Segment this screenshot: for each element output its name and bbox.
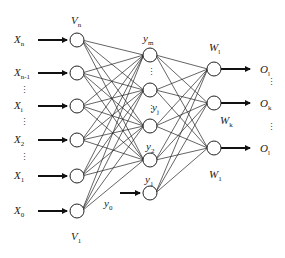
input-node bbox=[70, 169, 84, 183]
ellipsis: ⋮ bbox=[20, 85, 29, 95]
ellipsis: ⋮ bbox=[147, 104, 156, 114]
input-label-x1: X1 bbox=[13, 169, 25, 184]
input-label-xi: Xi bbox=[13, 99, 23, 114]
input-label-xn-1: Xn-1 bbox=[13, 66, 31, 81]
ellipsis: ⋮ bbox=[147, 67, 156, 77]
hidden-node bbox=[143, 153, 157, 167]
input-label-x2: X2 bbox=[13, 133, 25, 148]
output-node bbox=[207, 96, 221, 110]
output-node bbox=[207, 62, 221, 76]
weight-label-wl: Wl bbox=[209, 41, 220, 56]
ellipsis: ⋮ bbox=[267, 122, 276, 132]
ellipsis: ⋮ bbox=[20, 117, 29, 127]
output-label-o1: Ok bbox=[260, 97, 272, 112]
output-node bbox=[207, 141, 221, 155]
hidden-node bbox=[143, 186, 157, 200]
hidden-node bbox=[143, 83, 157, 97]
weight-label-w1: W1 bbox=[209, 168, 222, 183]
bias-label-y0: y0 bbox=[103, 197, 113, 212]
input-node bbox=[70, 99, 84, 113]
input-node bbox=[70, 133, 84, 147]
ellipsis: ⋮ bbox=[267, 77, 276, 87]
input-layer-bottom-label: V1 bbox=[71, 230, 82, 245]
hidden-node bbox=[143, 48, 157, 62]
ellipsis: ⋮ bbox=[20, 152, 29, 162]
input-node bbox=[70, 33, 84, 47]
hidden-label-ym: ym bbox=[142, 32, 154, 47]
hidden-label-y1: y1 bbox=[144, 173, 154, 188]
input-layer-top-label: Vn bbox=[71, 14, 82, 29]
neural-network-diagram: XnXn-1XiX2X1X0y0OlOkOlVnV1ymyjy2y1WlWkW1… bbox=[0, 0, 285, 258]
weight-label-wk: Wk bbox=[220, 114, 233, 129]
output-label-o0: Ol bbox=[260, 63, 270, 78]
hidden-node bbox=[143, 119, 157, 133]
input-node bbox=[70, 66, 84, 80]
output-label-o2: Ol bbox=[260, 142, 270, 157]
hidden-label-y2: y2 bbox=[145, 140, 155, 155]
input-label-xn: Xn bbox=[13, 33, 25, 48]
input-label-x0: X0 bbox=[13, 204, 25, 219]
input-node bbox=[70, 204, 84, 218]
